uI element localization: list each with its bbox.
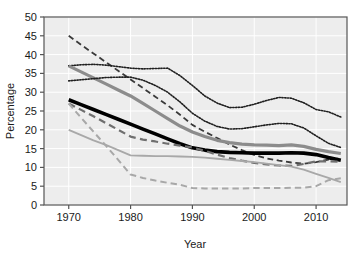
- x-tick-label: 1980: [118, 211, 142, 223]
- x-axis-tick-labels: 19701980199020002010: [56, 211, 328, 223]
- line-chart: 05101520253035404550 1970198019902000201…: [0, 0, 360, 253]
- y-tick-label: 15: [25, 143, 37, 155]
- x-axis-title: Year: [184, 238, 207, 250]
- chart-container: 05101520253035404550 1970198019902000201…: [0, 0, 360, 253]
- x-tick-label: 1990: [180, 211, 204, 223]
- y-tick-label: 25: [25, 105, 37, 117]
- x-tick-label: 2000: [242, 211, 266, 223]
- x-axis-ticks: [69, 205, 316, 209]
- y-tick-label: 30: [25, 86, 37, 98]
- y-tick-label: 50: [25, 11, 37, 23]
- y-tick-label: 5: [31, 180, 37, 192]
- x-tick-label: 2010: [304, 211, 328, 223]
- x-tick-label: 1970: [56, 211, 80, 223]
- y-tick-label: 0: [31, 199, 37, 211]
- y-tick-label: 20: [25, 124, 37, 136]
- y-tick-label: 45: [25, 30, 37, 42]
- y-tick-label: 10: [25, 161, 37, 173]
- y-tick-label: 35: [25, 67, 37, 79]
- y-axis-tick-labels: 05101520253035404550: [25, 11, 37, 211]
- y-tick-label: 40: [25, 49, 37, 61]
- y-axis-title: Percentage: [4, 83, 16, 139]
